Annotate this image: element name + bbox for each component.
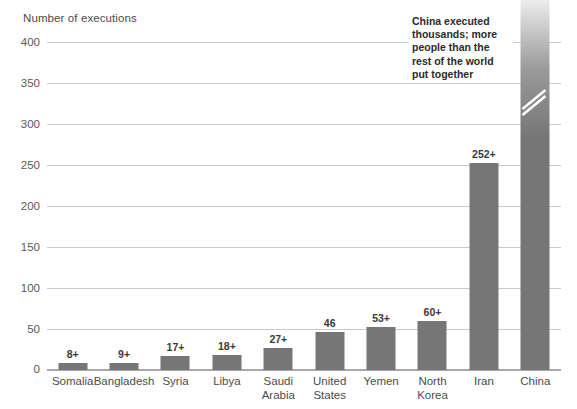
bar-group[interactable]: 9+Bangladesh: [98, 331, 149, 370]
y-axis-tick-label: 100: [21, 282, 40, 294]
bar-group[interactable]: 60+NorthKorea: [407, 331, 458, 370]
bar-category-label: Somalia: [52, 375, 94, 389]
bar-group[interactable]: 252+Iran: [458, 331, 509, 370]
y-axis-tick-label: 200: [21, 200, 40, 212]
bar[interactable]: [315, 332, 344, 370]
bar-group[interactable]: 27+SaudiArabia: [253, 331, 304, 370]
bar-group[interactable]: 46UnitedStates: [304, 331, 355, 370]
bar-category-label: NorthKorea: [417, 375, 448, 402]
bar-value-label: 9+: [118, 348, 130, 360]
bar-group[interactable]: China: [510, 331, 561, 370]
y-axis-tick-label: 250: [21, 159, 40, 171]
y-axis-tick-label: 300: [21, 118, 40, 130]
y-axis-tick-label: 400: [21, 36, 40, 48]
bar[interactable]: [264, 348, 293, 370]
bar-group[interactable]: 17+Syria: [150, 331, 201, 370]
gridline-300: 300: [47, 124, 561, 125]
bar-category-label: SaudiArabia: [262, 375, 295, 402]
bar[interactable]: [367, 327, 396, 370]
bar-value-label: 60+: [424, 306, 442, 318]
y-axis-tick-label: 350: [21, 77, 40, 89]
y-axis-tick-label: 150: [21, 241, 40, 253]
y-axis-tick-label: 0: [34, 363, 40, 375]
bar-group[interactable]: 18+Libya: [201, 331, 252, 370]
bar-category-label: Syria: [162, 375, 188, 389]
bar-value-label: 27+: [269, 333, 287, 345]
bar[interactable]: [418, 321, 447, 370]
bar-category-label: Libya: [213, 375, 241, 389]
bar[interactable]: [161, 356, 190, 370]
y-axis-tick-label: 50: [27, 323, 40, 335]
bar-group[interactable]: 53+Yemen: [355, 331, 406, 370]
bar[interactable]: [469, 163, 498, 370]
bar[interactable]: [212, 355, 241, 370]
bar-value-label: 252+: [472, 148, 496, 160]
bar-category-label: China: [520, 375, 550, 389]
bar[interactable]: [521, 0, 550, 370]
bar-value-label: 18+: [218, 340, 236, 352]
bar-category-label: UnitedStates: [313, 375, 346, 402]
bar-group[interactable]: 8+Somalia: [47, 331, 98, 370]
bar-value-label: 8+: [67, 348, 79, 360]
bar-category-label: Bangladesh: [94, 375, 155, 389]
bar[interactable]: [58, 363, 87, 370]
bar-value-label: 17+: [167, 341, 185, 353]
bar-value-label: 46: [324, 317, 336, 329]
bar[interactable]: [110, 363, 139, 370]
china-annotation: China executed thousands; more people th…: [409, 13, 513, 83]
bar-category-label: Yemen: [363, 375, 398, 389]
bar-category-label: Iran: [474, 375, 494, 389]
execution-bar-chart: Number of executions 4003503002502001501…: [0, 0, 577, 409]
bar-value-label: 53+: [372, 312, 390, 324]
